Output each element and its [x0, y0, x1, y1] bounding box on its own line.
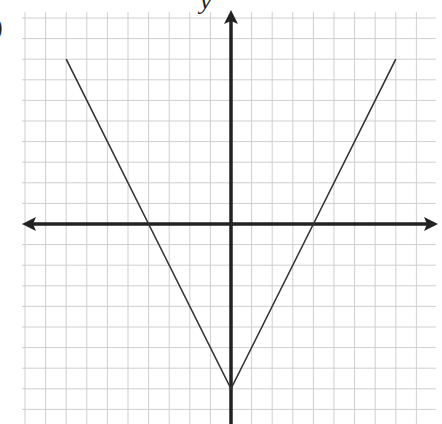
grid	[22, 12, 436, 424]
coordinate-plane	[0, 0, 442, 424]
